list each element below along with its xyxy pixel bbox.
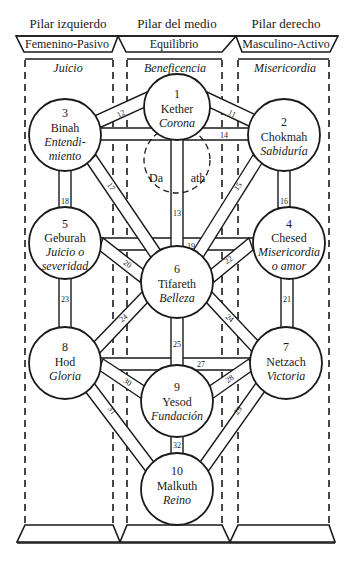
sephirah-8-number: 8 bbox=[62, 340, 68, 354]
path-number-16: 16 bbox=[280, 197, 288, 206]
left-pillar-title: Pilar izquierdo bbox=[30, 16, 107, 31]
sephirah-4-meaning-2: o amor bbox=[272, 259, 307, 273]
sephirah-7-name: Netzach bbox=[266, 355, 305, 369]
sephirah-1-meaning: Corona bbox=[159, 116, 195, 130]
sephirah-9-number: 9 bbox=[174, 380, 180, 394]
sephirah-9-meaning: Fundación bbox=[150, 409, 203, 423]
path-number-14: 14 bbox=[220, 131, 228, 140]
path-number-13: 13 bbox=[173, 209, 181, 218]
sephirah-9-name: Yesod bbox=[162, 395, 191, 409]
middle-pillar-quality: Equilibrio bbox=[150, 37, 199, 51]
sephirah-3-number: 3 bbox=[62, 106, 68, 120]
middle-pillar-attribute: Beneficencia bbox=[144, 61, 206, 75]
middle-pillar-title: Pilar del medio bbox=[137, 16, 216, 31]
right-pillar-quality: Masculino-Activo bbox=[242, 37, 329, 51]
sephirah-8-name: Hod bbox=[55, 355, 76, 369]
sephirah-5-number: 5 bbox=[62, 217, 68, 231]
daath-label-right: ath bbox=[191, 171, 206, 185]
sephirah-5-name: Geburah bbox=[44, 231, 85, 245]
sephirah-6-number: 6 bbox=[174, 262, 180, 276]
sephirah-7-meaning: Victoria bbox=[267, 369, 305, 383]
sephirah-2-meaning: Sabiduría bbox=[260, 144, 307, 158]
left-pillar-attribute: Juicio bbox=[53, 61, 82, 75]
path-number-18: 18 bbox=[61, 197, 69, 206]
sephirah-7-number: 7 bbox=[283, 340, 289, 354]
right-pillar-title: Pilar derecho bbox=[252, 16, 321, 31]
bottom-base-band bbox=[17, 525, 335, 543]
sephirah-10-name: Malkuth bbox=[157, 479, 198, 493]
sephirah-10-number: 10 bbox=[171, 464, 183, 478]
sephirah-6-meaning: Belleza bbox=[159, 291, 194, 305]
sephirah-4-meaning-1: Misericordia bbox=[257, 245, 320, 259]
tree-of-life-diagram: Pilar izquierdo Pilar del medio Pilar de… bbox=[0, 0, 356, 563]
left-pillar-quality: Femenino-Pasivo bbox=[25, 37, 109, 51]
sephirah-5-meaning-2: severidad bbox=[42, 259, 90, 273]
sephirah-2-number: 2 bbox=[281, 115, 287, 129]
path-number-25: 25 bbox=[173, 340, 181, 349]
sephirah-4-name: Chesed bbox=[271, 231, 306, 245]
sephirah-1-name: Kether bbox=[161, 102, 194, 116]
sephirah-3-name: Binah bbox=[51, 121, 80, 135]
sephirah-2-name: Chokmah bbox=[261, 130, 308, 144]
sephirah-4-number: 4 bbox=[286, 217, 292, 231]
daath-label-left: Da bbox=[149, 171, 164, 185]
path-number-27: 27 bbox=[197, 360, 205, 369]
path-number-23: 23 bbox=[61, 295, 69, 304]
sephirah-1-number: 1 bbox=[174, 87, 180, 101]
right-pillar-attribute: Misericordia bbox=[253, 61, 316, 75]
path-number-21: 21 bbox=[283, 295, 291, 304]
sephirah-10-meaning: Reino bbox=[162, 493, 191, 507]
sephirah-3-meaning-2: miento bbox=[49, 149, 82, 163]
sephirah-8-meaning: Gloria bbox=[49, 369, 81, 383]
path-number-32: 32 bbox=[173, 441, 181, 450]
sephirah-6-name: Tifareth bbox=[158, 277, 196, 291]
sephirah-5-meaning-1: Juicio o bbox=[46, 245, 84, 259]
sephirah-3-meaning-1: Entendi- bbox=[43, 135, 85, 149]
